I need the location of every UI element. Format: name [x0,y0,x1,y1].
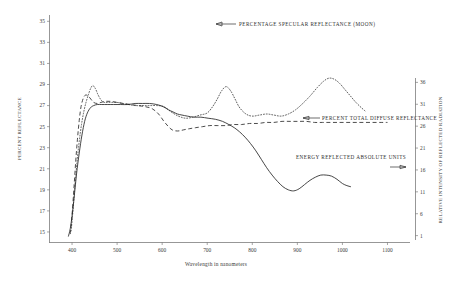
annotation-specular: PERCENTAGE SPECULAR REFLECTANCE (MOON) [216,21,375,28]
left-tick-label: 27 [40,102,46,108]
bottom-tick-label: 500 [113,247,121,253]
bottom-tick-label: 800 [248,247,256,253]
annotation-energy-label: ENERGY REFLECTED ABSOLUTE UNITS [296,154,406,160]
bottom-tick-label: 1100 [382,247,393,253]
annotation-diffuse: PERCENT TOTAL DIFFUSE REFLECTANCE [303,115,437,121]
left-tick-label: 33 [40,39,46,45]
right-tick-label: 6 [420,211,423,217]
annotation-diffuse-label: PERCENT TOTAL DIFFUSE REFLECTANCE [322,115,437,121]
left-tick-label: 29 [40,81,46,87]
series-energy-reflected-absolute-units [68,103,350,236]
bottom-tick-marks [72,243,387,246]
right-tick-label: 11 [420,189,425,195]
left-tick-label: 23 [40,145,46,151]
bottom-tick-label: 700 [203,247,211,253]
bottom-axis-group: 40050060070080090010001100 Wavelength in… [50,243,411,268]
left-tick-label: 19 [40,187,46,193]
left-tick-label: 25 [40,124,46,130]
right-axis-group: 16111621263136 RELATIVE INTENSITY OF REF… [416,78,444,240]
chart-page: 1517192123252729313335 PERCENT REFLECTAN… [0,0,457,287]
x-axis-title: Wavelength in nanometers [185,261,247,267]
left-tick-label: 31 [40,60,46,66]
left-tick-label: 35 [40,18,46,24]
left-axis-group: 1517192123252729313335 PERCENT REFLECTAN… [17,15,50,243]
right-tick-label: 26 [420,123,426,129]
bottom-tick-label: 1000 [337,247,348,253]
left-tick-marks [47,21,50,232]
left-tick-label: 17 [40,208,46,214]
right-tick-label: 36 [420,79,426,85]
right-axis-title: RELATIVE INTENSITY OF REFLECTED RADIATIO… [438,96,443,223]
reflectance-chart: 1517192123252729313335 PERCENT REFLECTAN… [0,0,457,287]
right-tick-label: 16 [420,167,426,173]
bottom-tick-labels: 40050060070080090010001100 [68,247,393,253]
left-tick-label: 21 [40,166,46,172]
right-tick-label: 31 [420,101,426,107]
annotation-specular-label: PERCENTAGE SPECULAR REFLECTANCE (MOON) [239,21,375,28]
left-tick-labels: 1517192123252729313335 [40,18,46,235]
bottom-tick-label: 600 [158,247,166,253]
bottom-tick-label: 400 [68,247,76,253]
right-tick-label: 21 [420,145,426,151]
bottom-tick-label: 900 [293,247,301,253]
annotation-energy: ENERGY REFLECTED ABSOLUTE UNITS [296,154,406,169]
left-axis-title: PERCENT REFLECTANCE [17,97,22,160]
right-tick-label: 1 [420,233,423,239]
right-tick-labels: 16111621263136 [420,79,426,238]
left-tick-label: 15 [40,229,46,235]
right-tick-marks [416,82,419,235]
